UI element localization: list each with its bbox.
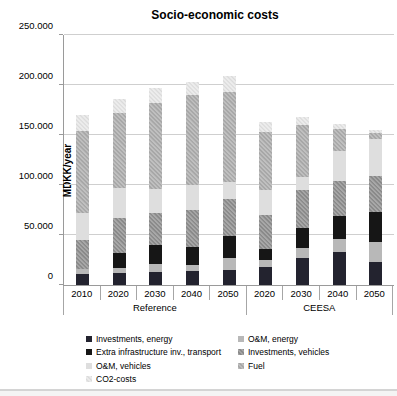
bar-segment (259, 260, 272, 267)
bar-segment (186, 210, 199, 247)
bar-segment (369, 133, 382, 139)
legend-item: O&M, energy (238, 332, 329, 346)
bar-segment (149, 213, 162, 245)
bar-segment (259, 215, 272, 249)
year-label-row: 201020202030204020502020203020402050 (63, 286, 393, 300)
bar-segment (223, 182, 236, 199)
bar-segment (296, 125, 309, 177)
bar-segment (333, 216, 346, 239)
chart-figure: Socio-economic costs MDKK/year 050.00010… (0, 0, 397, 396)
bar-segment (113, 218, 126, 253)
bar-segment (149, 272, 162, 285)
bar-segment (223, 199, 236, 236)
bar-segment (149, 103, 162, 189)
legend-marker-icon (238, 349, 244, 355)
bar-segment (76, 115, 89, 131)
legend-item: Extra infrastructure inv., transport (86, 346, 238, 360)
bar-segment (76, 269, 89, 274)
x-tick-label: 2040 (320, 286, 357, 300)
legend-marker-icon (86, 376, 92, 382)
bar-segment (296, 117, 309, 125)
bar-segment (259, 190, 272, 215)
x-tick-label: 2050 (210, 286, 247, 300)
bar-segment (259, 249, 272, 260)
bar-segment (113, 188, 126, 218)
y-tick-label: 150.000 (1, 120, 53, 131)
y-tick-label: 0 (1, 270, 53, 281)
group-label: Reference (63, 300, 247, 315)
bar-segment (149, 245, 162, 264)
legend-marker-icon (238, 336, 244, 342)
bar-segment (76, 131, 89, 213)
bar-segment (223, 270, 236, 285)
bar-segment (186, 82, 199, 95)
y-tick-label: 250.000 (1, 20, 53, 31)
x-tick-label: 2020 (247, 286, 284, 300)
legend-item: Fuel (238, 359, 329, 373)
group-label: CEESA (247, 300, 393, 315)
bar-segment (296, 228, 309, 248)
y-tick-mark (59, 184, 63, 185)
x-tick-label: 2040 (174, 286, 211, 300)
bar-segment (369, 130, 382, 133)
bar-segment (113, 99, 126, 113)
y-tick-mark (59, 234, 63, 235)
legend-item: Investments, vehicles (238, 346, 329, 360)
bar-segment (333, 124, 346, 129)
bar-segment (113, 253, 126, 268)
gridline (64, 34, 394, 35)
bar-segment (369, 212, 382, 242)
legend-marker-icon (86, 363, 92, 369)
legend: Investments, energyO&M, energyExtra infr… (86, 332, 329, 386)
bar-segment (223, 236, 236, 258)
bar-segment (369, 242, 382, 262)
figure-bottom-margin (0, 391, 397, 396)
bar-segment (113, 273, 126, 285)
bar-segment (113, 113, 126, 188)
bar-segment (223, 258, 236, 270)
bar-segment (333, 151, 346, 181)
y-tick-mark (59, 34, 63, 35)
x-tick-label: 2020 (101, 286, 138, 300)
y-axis-title: MDKK/year (62, 131, 73, 211)
bar-segment (296, 177, 309, 190)
bar-segment (113, 268, 126, 273)
legend-marker-icon (86, 336, 92, 342)
bar-segment (296, 258, 309, 285)
bar-segment (369, 262, 382, 285)
plot-area: MDKK/year 050.000100.000150.000200.00025… (63, 35, 394, 286)
legend-label: O&M, energy (248, 334, 298, 344)
y-tick-label: 50.000 (1, 220, 53, 231)
bar-segment (149, 88, 162, 103)
bar-segment (369, 139, 382, 176)
y-tick-label: 100.000 (1, 170, 53, 181)
legend-marker-icon (86, 349, 92, 355)
bar-segment (333, 239, 346, 252)
chart-title: Socio-economic costs (35, 8, 395, 22)
category-axis: 201020202030204020502020203020402050 Ref… (63, 286, 393, 316)
legend-label: Investments, vehicles (248, 347, 329, 357)
y-tick-mark (59, 84, 63, 85)
x-tick-label: 2030 (283, 286, 320, 300)
legend-item: Investments, energy (86, 332, 238, 346)
bar-segment (149, 264, 162, 272)
legend-label: Investments, energy (96, 334, 173, 344)
x-tick-label: 2050 (357, 286, 394, 300)
bar-segment (333, 181, 346, 216)
legend-item: CO2-costs (86, 373, 238, 387)
bar-segment (333, 129, 346, 151)
bar-segment (369, 176, 382, 212)
bar-segment (76, 213, 89, 240)
bar-segment (223, 92, 236, 182)
legend-label: Extra infrastructure inv., transport (96, 347, 221, 357)
y-tick-label: 200.000 (1, 70, 53, 81)
bar-segment (223, 76, 236, 92)
group-label-row: ReferenceCEESA (63, 300, 393, 315)
bar-segment (296, 190, 309, 228)
x-tick-label: 2010 (63, 286, 101, 300)
bar-segment (333, 252, 346, 285)
legend-label: CO2-costs (96, 374, 136, 384)
legend-label: O&M, vehicles (96, 361, 151, 371)
bar-segment (186, 185, 199, 210)
legend-item: O&M, vehicles (86, 359, 238, 373)
